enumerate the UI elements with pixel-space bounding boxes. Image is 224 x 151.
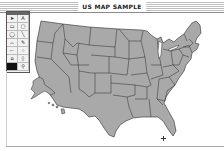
hawaii-island-3 [56,106,58,108]
hawaii-island-1 [48,102,50,104]
polygon-tool[interactable]: ⌂ [7,55,18,63]
text-tool[interactable]: A [18,15,29,23]
spray-icon: ⁘ [21,47,25,53]
bucket-icon: ⌓ [10,39,14,45]
window-title: US MAP SAMPLE [78,2,146,12]
contiguous-us-outline [35,21,201,137]
window-left-edge [6,71,7,147]
hawaii-big-island [61,109,65,114]
hawaii-island-2 [52,104,54,106]
spray-tool[interactable]: ⁘ [18,47,29,55]
us-map-canvas[interactable] [29,13,223,147]
zoom-icon: ⚲ [21,63,25,69]
title-bar[interactable]: US MAP SAMPLE [0,2,224,13]
pencil-tool[interactable]: ✎ [18,39,29,47]
line-icon: ╲ [21,31,24,37]
bucket-tool[interactable]: ⌓ [7,39,18,47]
rounded-rectangle-tool[interactable]: ▢ [18,23,29,31]
brush-icon: ⌐ [10,47,14,53]
rounded-rectangle-icon: ▢ [21,23,26,29]
tool-palette: ➤A▭▢◯╲⌓✎⌐⁘⌂▯⚲ [6,11,30,73]
oval-tool[interactable]: ◯ [7,31,18,39]
rectangle-icon: ▭ [10,23,15,29]
line-tool[interactable]: ╲ [18,31,29,39]
polygon-icon: ⌂ [10,55,13,61]
pencil-icon: ✎ [21,39,25,45]
text-icon: A [21,15,24,21]
eraser-icon: ▯ [22,55,25,61]
rectangle-tool[interactable]: ▭ [7,23,18,31]
drawing-window: US MAP SAMPLE ➤A▭▢◯╲⌓✎⌐⁘⌂▯⚲ [0,0,224,151]
brush-tool[interactable]: ⌐ [7,47,18,55]
arrow-tool[interactable]: ➤ [7,15,18,23]
eraser-tool[interactable]: ▯ [18,55,29,63]
zoom-tool[interactable]: ⚲ [18,63,29,71]
arrow-icon: ➤ [10,15,14,21]
crosshair-cursor [161,136,166,141]
window-bottom-edge [6,146,224,147]
fill-pattern-swatch[interactable] [7,63,18,71]
oval-icon: ◯ [9,31,15,37]
